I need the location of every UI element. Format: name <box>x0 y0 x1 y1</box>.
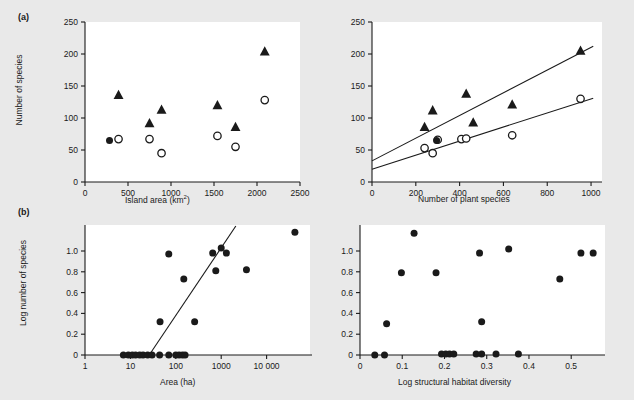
data-point-filled-circle <box>493 350 500 357</box>
y-tick-label: 1.0 <box>66 246 78 256</box>
data-point-open-circle <box>115 135 122 142</box>
data-point-filled-circle <box>433 269 440 276</box>
data-point-filled-circle <box>371 352 378 359</box>
data-point-filled-circle <box>383 320 390 327</box>
y-tick-label: 100 <box>351 113 365 123</box>
chart-b-left-svg: 110100100010 00000.20.40.60.81.0 <box>0 200 320 400</box>
data-point-open-circle <box>158 150 165 157</box>
data-point-filled-circle <box>191 318 198 325</box>
chart-b-right-svg: 00.10.20.30.40.500.20.40.60.81.0 <box>320 200 634 400</box>
y-tick-label: 0.2 <box>66 329 78 339</box>
y-tick-label: 0.2 <box>341 329 353 339</box>
figure-container: (a) (b) 05001000150020002500050100150200… <box>0 0 634 400</box>
data-point-filled-circle <box>476 250 483 257</box>
data-point-filled-circle <box>515 350 522 357</box>
data-point-open-circle <box>462 135 469 142</box>
chart-a-left: 05001000150020002500050100150200250 Numb… <box>0 0 320 200</box>
x-tick-label: 0.2 <box>439 361 451 371</box>
data-point-filled-circle <box>577 250 584 257</box>
y-tick-label: 250 <box>351 17 365 27</box>
series-filled-circle <box>433 137 440 144</box>
chart-a-right-svg: 02004006008001000050100150200250 <box>320 0 634 200</box>
data-point-filled-circle <box>556 276 563 283</box>
data-point-filled-circle <box>291 229 298 236</box>
y-tick-label: 0 <box>73 350 78 360</box>
data-point-filled-circle <box>182 352 189 359</box>
data-point-open-circle <box>421 144 428 151</box>
x-tick-label: 10 <box>126 361 136 371</box>
data-point-filled-circle <box>433 137 440 144</box>
data-point-filled-circle <box>398 269 405 276</box>
x-tick-label: 0.5 <box>565 361 577 371</box>
data-point-filled-circle <box>243 266 250 273</box>
x-tick-label: 800 <box>540 188 554 198</box>
data-point-open-circle <box>146 135 153 142</box>
y-axis-title-a-left: Number of species <box>14 20 24 160</box>
x-tick-label: 10 000 <box>254 361 280 371</box>
data-point-filled-circle <box>381 352 388 359</box>
data-point-filled-circle <box>165 251 172 258</box>
data-point-filled-circle <box>149 352 156 359</box>
data-point-filled-circle <box>212 267 219 274</box>
x-tick-label: 0.3 <box>481 361 493 371</box>
y-tick-label: 0 <box>73 177 78 187</box>
data-point-filled-circle <box>223 250 230 257</box>
series-filled-circle <box>106 137 113 144</box>
y-tick-label: 0 <box>348 350 353 360</box>
x-tick-label: 1500 <box>205 188 224 198</box>
x-tick-label: 1000 <box>212 361 231 371</box>
data-point-filled-circle <box>450 350 457 357</box>
y-tick-label: 0.8 <box>341 267 353 277</box>
x-tick-label: 1000 <box>582 188 601 198</box>
chart-b-right: 00.10.20.30.40.500.20.40.60.81.0 Log str… <box>320 200 634 400</box>
x-tick-label: 0 <box>358 361 363 371</box>
data-point-open-circle <box>261 96 268 103</box>
plot-area-background <box>85 225 310 355</box>
x-tick-label: 0.1 <box>396 361 408 371</box>
y-tick-label: 0.8 <box>66 267 78 277</box>
x-tick-label: 2500 <box>291 188 310 198</box>
x-axis-title-b-left: Area (ha) <box>160 377 195 387</box>
y-tick-label: 0 <box>360 177 365 187</box>
x-axis-title-b-right: Log structural habitat diversity <box>398 377 511 387</box>
data-point-filled-circle <box>478 350 485 357</box>
data-point-filled-circle <box>590 250 597 257</box>
plot-area-background <box>360 225 605 355</box>
data-point-filled-circle <box>165 352 172 359</box>
chart-b-left: 110100100010 00000.20.40.60.81.0 Log num… <box>0 200 320 400</box>
y-tick-label: 200 <box>64 49 78 59</box>
x-tick-label: 0.4 <box>523 361 535 371</box>
y-tick-label: 250 <box>64 17 78 27</box>
data-point-filled-circle <box>218 244 225 251</box>
data-point-filled-circle <box>180 276 187 283</box>
data-point-open-circle <box>429 150 436 157</box>
data-point-open-circle <box>577 95 584 102</box>
data-point-filled-circle <box>478 318 485 325</box>
x-tick-label: 0 <box>370 188 375 198</box>
data-point-filled-circle <box>209 250 216 257</box>
data-point-open-circle <box>508 132 515 139</box>
chart-a-left-svg: 05001000150020002500050100150200250 <box>0 0 320 200</box>
data-point-open-circle <box>214 132 221 139</box>
y-tick-label: 150 <box>64 81 78 91</box>
y-tick-label: 50 <box>69 145 79 155</box>
y-tick-label: 150 <box>351 81 365 91</box>
y-tick-label: 0.6 <box>341 288 353 298</box>
y-tick-label: 0.4 <box>66 308 78 318</box>
y-tick-label: 50 <box>356 145 366 155</box>
data-point-filled-circle <box>505 245 512 252</box>
y-tick-label: 100 <box>64 113 78 123</box>
y-axis-title-b-left: Log number of species <box>18 218 28 348</box>
y-tick-label: 200 <box>351 49 365 59</box>
x-tick-label: 2000 <box>248 188 267 198</box>
data-point-open-circle <box>232 143 239 150</box>
y-tick-label: 0.4 <box>341 308 353 318</box>
x-tick-label: 1 <box>83 361 88 371</box>
y-tick-label: 0.6 <box>66 288 78 298</box>
chart-a-right: 02004006008001000050100150200250 Number … <box>320 0 634 200</box>
data-point-filled-circle <box>156 352 163 359</box>
x-tick-label: 100 <box>169 361 183 371</box>
data-point-filled-circle <box>411 230 418 237</box>
data-point-filled-circle <box>106 137 113 144</box>
x-tick-label: 0 <box>83 188 88 198</box>
